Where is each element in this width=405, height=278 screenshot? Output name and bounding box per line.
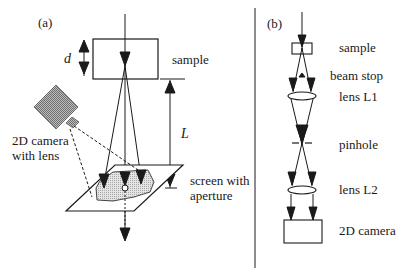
- component-label: sample: [339, 40, 376, 55]
- component-label: lens L1: [339, 89, 378, 104]
- arrow-up-icon: [165, 81, 175, 93]
- arrowhead-icon: [288, 172, 296, 185]
- beam-stop: [299, 73, 305, 77]
- thickness-label: d: [64, 51, 72, 66]
- arrowhead-icon: [298, 35, 306, 47]
- panel-b: [284, 12, 322, 243]
- arrowhead-icon: [289, 78, 297, 91]
- arrowhead-icon: [120, 52, 130, 66]
- camera-view-line: [70, 129, 92, 197]
- panel-a: [34, 14, 185, 241]
- optical-setup-diagram: (a) d sample L 2D camera with lens scree…: [0, 0, 405, 278]
- distance-label: L: [180, 126, 189, 141]
- lens-l2: [288, 186, 316, 194]
- component-label: beam stop: [330, 68, 383, 83]
- diagram-svg: (a) d sample L 2D camera with lens scree…: [0, 0, 405, 278]
- camera-icon: [34, 85, 79, 129]
- screen-label-line1: screen with: [190, 173, 250, 188]
- component-label: lens L2: [339, 182, 378, 197]
- aperture: [122, 185, 128, 191]
- camera-label-line1: 2D camera: [12, 133, 69, 148]
- arrowhead-icon: [296, 125, 308, 143]
- screen-label-line2: aperture: [190, 188, 233, 203]
- component-label: pinhole: [339, 137, 378, 152]
- lens-l1: [288, 92, 316, 100]
- arrow-down-icon: [79, 62, 89, 74]
- arrow-up-icon: [79, 40, 89, 52]
- arrowhead-icon: [287, 207, 295, 220]
- panel-a-label: (a): [38, 15, 52, 30]
- panel-b-label: (b): [267, 16, 282, 31]
- camera-box: [284, 220, 322, 243]
- component-label: 2D camera: [339, 223, 396, 238]
- sample-label: sample: [172, 52, 209, 67]
- arrowhead-icon: [309, 207, 317, 220]
- scattered-ray-right: [125, 66, 141, 178]
- arrowhead-icon: [307, 78, 315, 91]
- arrowhead-icon: [120, 228, 130, 241]
- arrowhead-icon: [308, 172, 316, 185]
- camera-label-line2: with lens: [12, 148, 59, 163]
